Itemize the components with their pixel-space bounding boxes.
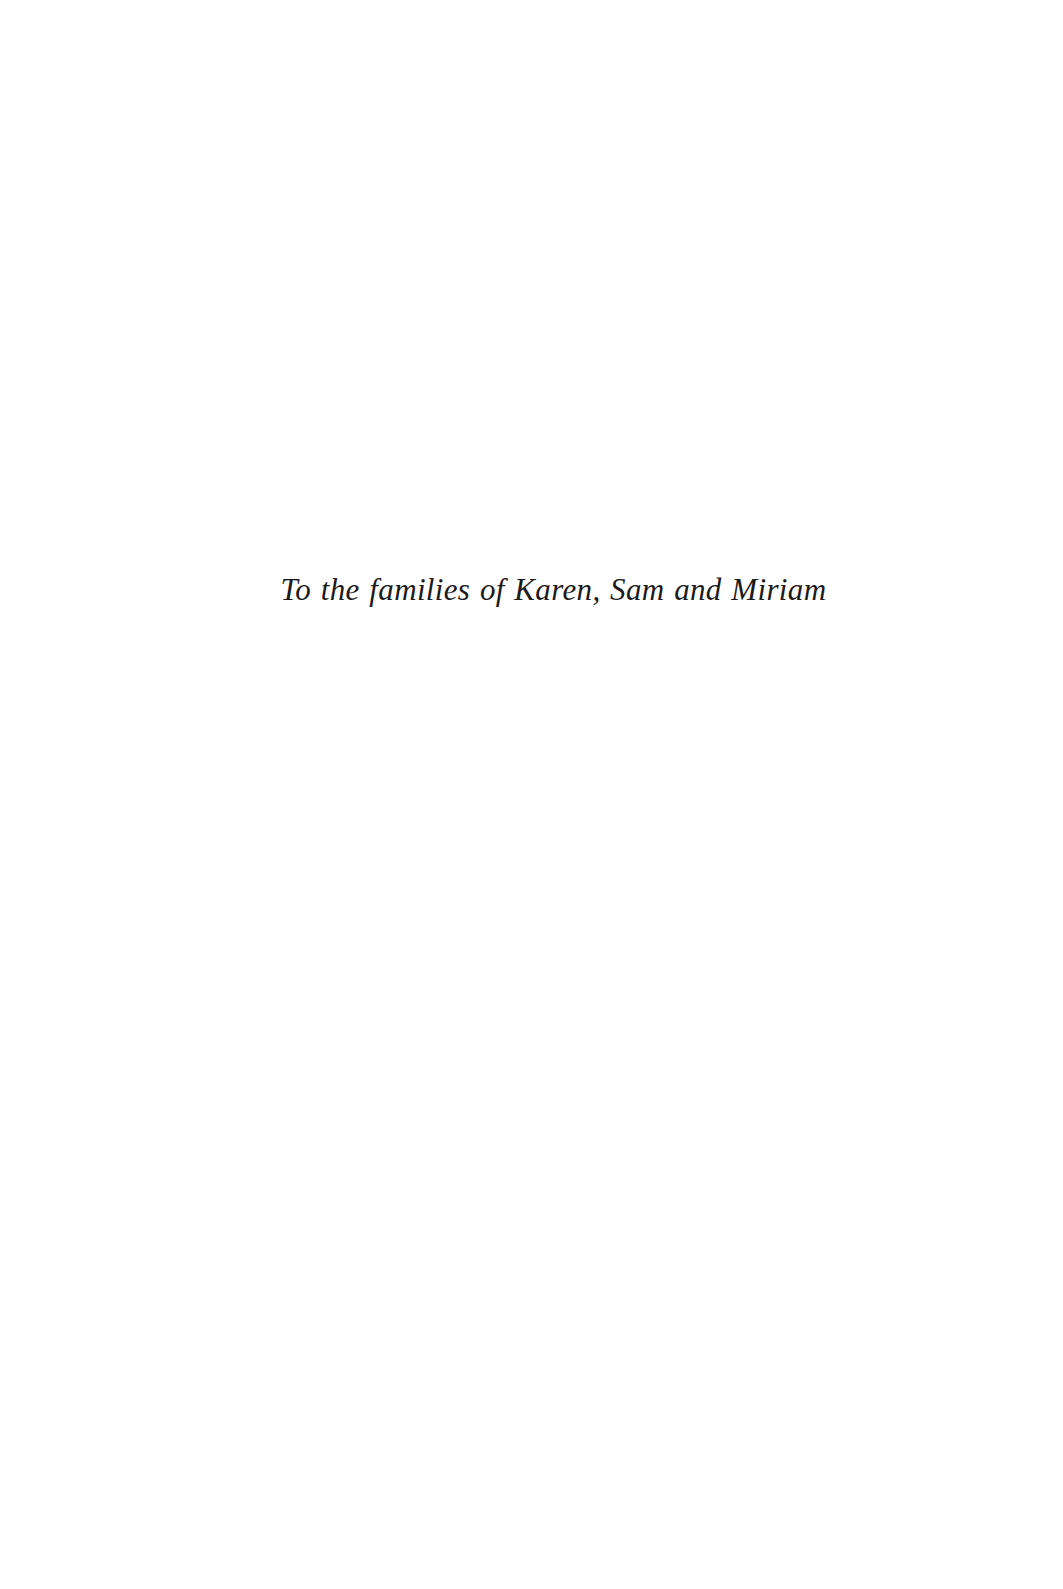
dedication-page: To the families of Karen, Sam and Miriam bbox=[0, 0, 1063, 1589]
dedication-block: To the families of Karen, Sam and Miriam bbox=[0, 570, 1063, 610]
dedication-text: To the families of Karen, Sam and Miriam bbox=[281, 570, 827, 610]
